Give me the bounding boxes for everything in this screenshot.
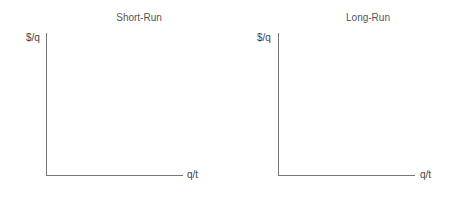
- long-run-title: Long-Run: [346, 12, 390, 23]
- short-run-x-axis: [46, 175, 183, 176]
- long-run-y-axis-label: $/q: [257, 32, 271, 43]
- long-run-y-axis: [278, 33, 279, 176]
- short-run-y-axis-label: $/q: [26, 32, 40, 43]
- short-run-x-axis-label: q/t: [187, 169, 198, 180]
- long-run-x-axis-label: q/t: [420, 169, 431, 180]
- short-run-y-axis: [46, 33, 47, 176]
- long-run-x-axis: [278, 175, 415, 176]
- short-run-title: Short-Run: [116, 12, 162, 23]
